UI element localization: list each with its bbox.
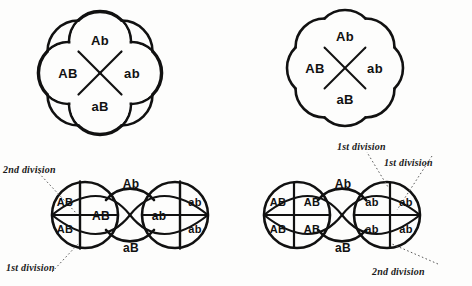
- annotation-ordinal: 2nd: [3, 164, 19, 175]
- cell-label-right-outer-upper: ab: [399, 196, 412, 208]
- figure-top-right: Ab AB ab aB: [278, 4, 412, 132]
- annotation-2nd-division-br: 2nd division: [372, 266, 425, 277]
- leader-1st-division: [52, 244, 78, 272]
- figure-bottom-left: Ab aB AB ab AB AB ab ab: [30, 152, 230, 286]
- cell-label-left-outer-upper: AB: [270, 196, 287, 208]
- cell-label-center-right: ab: [152, 209, 167, 223]
- annotation-ordinal: 1st: [384, 157, 396, 168]
- cell-label-top: Ab: [91, 33, 109, 48]
- bottom-left-divided-graphic: [30, 152, 230, 286]
- cell-label-left-inner-lower: AB: [304, 223, 321, 235]
- cell-label-right-inner-upper: ab: [365, 196, 378, 208]
- annotation-text: division: [391, 266, 425, 277]
- cell-label-top: Ab: [336, 29, 354, 44]
- annotation-text: division: [399, 157, 433, 168]
- annotation-1st-division-br-b: 1st division: [384, 157, 433, 168]
- cell-label-left-lower: AB: [57, 223, 74, 235]
- cell-label-left-upper: AB: [57, 196, 74, 208]
- cell-label-right-upper: ab: [188, 196, 201, 208]
- cell-label-left: AB: [58, 66, 77, 81]
- annotation-ordinal: 1st: [337, 141, 349, 152]
- cell-label-left: AB: [305, 61, 324, 76]
- annotation-ordinal: 1st: [6, 262, 18, 273]
- cell-label-left-inner-upper: AB: [304, 196, 321, 208]
- cell-label-center-left: AB: [92, 209, 110, 223]
- cell-label-bottom-petal: aB: [123, 241, 139, 255]
- cell-label-right: ab: [124, 66, 140, 81]
- annotation-1st-division-br-a: 1st division: [337, 141, 386, 152]
- cell-label-right-lower: ab: [188, 223, 201, 235]
- cell-label-top-petal: Ab: [335, 177, 352, 191]
- annotation-2nd-division-bottom-left: 2nd division: [3, 164, 56, 175]
- top-right-quatrefoil-graphic: [278, 4, 412, 132]
- top-left-quatrefoil-graphic: [30, 6, 170, 138]
- cell-label-bottom: aB: [336, 92, 353, 107]
- cell-label-left-outer-lower: AB: [270, 223, 287, 235]
- cell-label-bottom-petal: aB: [335, 241, 351, 255]
- cell-label-right-outer-lower: ab: [399, 223, 412, 235]
- meiosis-tetrad-diagram-page: { "figures": { "top_left": { "name": "te…: [0, 0, 472, 286]
- annotation-1st-division-bottom-left: 1st division: [6, 262, 55, 273]
- cell-label-right-inner-lower: ab: [365, 223, 378, 235]
- annotation-ordinal: 2nd: [372, 266, 388, 277]
- cell-label-top-petal: Ab: [123, 177, 140, 191]
- annotation-text: division: [352, 141, 386, 152]
- cell-label-bottom: aB: [91, 99, 108, 114]
- figure-top-left: Ab AB ab aB: [30, 6, 170, 138]
- annotation-text: division: [22, 164, 56, 175]
- cell-label-right: ab: [367, 61, 383, 76]
- annotation-text: division: [21, 262, 55, 273]
